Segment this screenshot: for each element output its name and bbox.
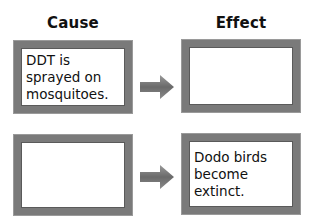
effect-text-1 xyxy=(194,47,291,105)
arrow-right-icon xyxy=(140,165,174,189)
cause-box-1[interactable]: DDT is sprayed on mosquitoes. xyxy=(14,41,132,113)
cause-text-1: DDT is sprayed on mosquitoes. xyxy=(26,48,123,106)
cause-box-2[interactable] xyxy=(14,135,132,215)
cause-header: Cause xyxy=(14,14,132,32)
effect-box-1[interactable] xyxy=(182,40,300,112)
arrow-right-icon xyxy=(140,75,174,99)
effect-text-2: Dodo birds become extinct. xyxy=(194,141,291,207)
effect-box-2[interactable]: Dodo birds become extinct. xyxy=(182,134,300,214)
effect-header: Effect xyxy=(182,14,300,32)
cause-text-2 xyxy=(26,142,123,208)
